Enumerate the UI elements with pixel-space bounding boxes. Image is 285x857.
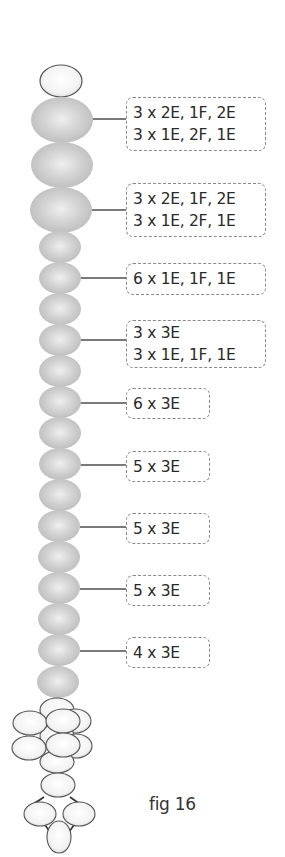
medium-bead — [38, 541, 80, 573]
label-text: 5 x 3E — [133, 518, 203, 540]
leaf-bead-left — [24, 802, 56, 826]
medium-bead — [39, 324, 81, 356]
label-box-9: 4 x 3E — [126, 637, 210, 668]
label-text: 6 x 1E, 1F, 1E — [133, 268, 259, 290]
label-box-8: 5 x 3E — [126, 575, 210, 606]
label-box-2: 3 x 2E, 1F, 2E 3 x 1E, 2F, 1E — [126, 183, 266, 237]
label-text: 5 x 3E — [133, 580, 203, 602]
label-text: 3 x 2E, 1F, 2E — [133, 102, 259, 124]
medium-bead — [38, 603, 80, 635]
medium-bead — [38, 634, 80, 666]
white-bead-cluster — [12, 698, 92, 773]
label-box-7: 5 x 3E — [126, 513, 210, 544]
medium-bead — [39, 355, 81, 387]
label-text: 6 x 3E — [133, 393, 203, 415]
label-text: 3 x 2E, 1F, 2E — [133, 188, 259, 210]
cluster-bead — [13, 711, 47, 735]
cluster-bead — [12, 736, 46, 760]
label-box-3: 6 x 1E, 1F, 1E — [126, 263, 266, 295]
medium-bead — [39, 386, 81, 418]
label-text: 3 x 1E, 2F, 1E — [133, 210, 259, 232]
label-box-1: 3 x 2E, 1F, 2E 3 x 1E, 2F, 1E — [126, 97, 266, 151]
label-text: 3 x 1E, 1F, 1E — [133, 344, 259, 366]
large-bead — [31, 142, 93, 188]
tip-bead — [47, 821, 71, 853]
medium-bead — [38, 510, 80, 542]
large-bead — [30, 187, 92, 233]
medium-bead — [37, 666, 79, 698]
label-box-6: 5 x 3E — [126, 451, 210, 482]
leaf-bead-right — [63, 802, 95, 826]
medium-bead — [39, 231, 81, 263]
cluster-bead — [46, 733, 80, 757]
cluster-bead — [46, 709, 80, 733]
label-text: 3 x 3E — [133, 322, 259, 344]
medium-bead — [39, 262, 81, 294]
medium-bead — [39, 448, 81, 480]
medium-gray-beads — [37, 231, 81, 698]
label-text: 5 x 3E — [133, 456, 203, 478]
label-box-4: 3 x 3E 3 x 1E, 1F, 1E — [126, 320, 266, 368]
figure-caption: fig 16 — [149, 794, 196, 814]
label-text: 3 x 1E, 2F, 1E — [133, 124, 259, 146]
medium-bead — [39, 417, 81, 449]
label-text: 4 x 3E — [133, 642, 203, 664]
white-bead — [41, 773, 75, 797]
label-box-5: 6 x 3E — [126, 388, 210, 419]
large-gray-beads — [30, 97, 93, 233]
bottom-beads — [24, 773, 95, 853]
medium-bead — [39, 293, 81, 325]
medium-bead — [38, 572, 80, 604]
medium-bead — [39, 479, 81, 511]
white-bead-top — [40, 65, 82, 97]
large-bead — [31, 97, 93, 143]
